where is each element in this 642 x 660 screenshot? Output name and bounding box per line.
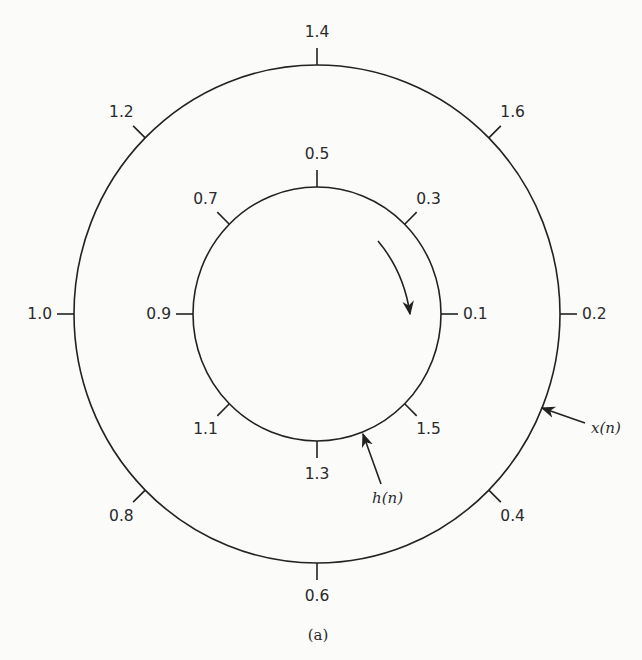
outer-circle-ticks: 0.21.61.41.21.00.80.60.4 bbox=[27, 23, 606, 605]
outer-tick-label: 1.0 bbox=[27, 305, 52, 323]
inner-tick-label: 0.7 bbox=[193, 190, 218, 208]
h-label: h(n) bbox=[372, 489, 403, 507]
outer-tick bbox=[489, 126, 501, 138]
inner-tick-label: 0.3 bbox=[416, 190, 441, 208]
inner-tick-label: 0.9 bbox=[146, 305, 171, 323]
inner-tick bbox=[217, 404, 229, 416]
inner-tick-label: 0.5 bbox=[305, 145, 330, 163]
inner-circle-ticks: 0.10.30.50.70.91.11.31.5 bbox=[146, 145, 487, 483]
outer-tick-label: 0.4 bbox=[500, 507, 525, 525]
outer-tick bbox=[133, 126, 145, 138]
outer-tick-label: 1.2 bbox=[109, 103, 134, 121]
inner-tick bbox=[405, 212, 417, 224]
figure-caption: (a) bbox=[308, 626, 329, 644]
inner-tick bbox=[217, 212, 229, 224]
outer-tick bbox=[133, 490, 145, 502]
circular-convolution-diagram: 0.21.61.41.21.00.80.60.4 0.10.30.50.70.9… bbox=[0, 0, 642, 660]
rotation-arrow-icon bbox=[378, 241, 410, 314]
outer-tick-label: 1.6 bbox=[500, 103, 525, 121]
inner-tick-label: 1.1 bbox=[193, 420, 218, 438]
h-pointer-arrow-icon bbox=[363, 434, 381, 484]
inner-tick bbox=[405, 404, 417, 416]
x-pointer-arrow-icon bbox=[542, 408, 585, 423]
inner-tick-label: 1.3 bbox=[305, 465, 330, 483]
outer-tick-label: 0.2 bbox=[582, 305, 607, 323]
inner-circle-h bbox=[193, 187, 441, 441]
outer-tick-label: 0.8 bbox=[109, 507, 134, 525]
outer-tick-label: 1.4 bbox=[305, 23, 330, 41]
outer-tick bbox=[489, 490, 501, 502]
inner-tick-label: 1.5 bbox=[416, 420, 441, 438]
inner-tick-label: 0.1 bbox=[463, 305, 488, 323]
diagram-canvas: 0.21.61.41.21.00.80.60.4 0.10.30.50.70.9… bbox=[0, 0, 642, 660]
x-label: x(n) bbox=[591, 419, 621, 437]
outer-tick-label: 0.6 bbox=[305, 587, 330, 605]
